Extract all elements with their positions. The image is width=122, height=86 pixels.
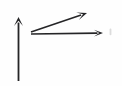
- diagram-canvas: [0, 0, 122, 86]
- horizontal-arrow-shaft: [31, 33, 97, 34]
- faint-speck-mark: [110, 29, 112, 36]
- arrow-diagram-svg: [0, 0, 122, 86]
